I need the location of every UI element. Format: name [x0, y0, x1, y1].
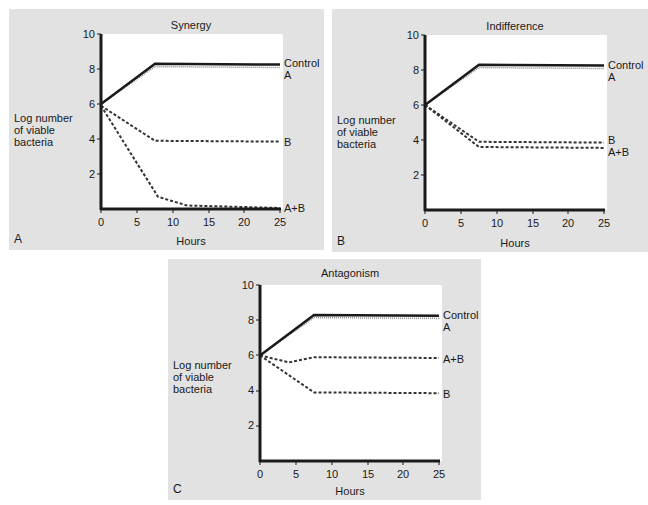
svg-text:B: B — [608, 134, 615, 146]
x-axis-ticks: 0 5 10 15 20 25 — [422, 217, 610, 229]
svg-text:8: 8 — [89, 63, 95, 75]
svg-text:A: A — [608, 71, 616, 83]
svg-text:bacteria: bacteria — [337, 138, 377, 150]
series-labels: Control A B A+B — [608, 59, 643, 158]
svg-text:20: 20 — [562, 217, 574, 229]
svg-text:10: 10 — [242, 279, 254, 291]
svg-text:bacteria: bacteria — [173, 383, 213, 395]
svg-text:8: 8 — [248, 314, 254, 326]
svg-text:0: 0 — [98, 216, 104, 228]
svg-text:10: 10 — [167, 216, 179, 228]
svg-text:Control: Control — [284, 57, 319, 69]
svg-text:of viable: of viable — [14, 124, 55, 136]
svg-text:10: 10 — [407, 29, 419, 41]
antagonism-chart: Antagonism 10 8 6 4 2 0 5 10 15 20 25 Ho… — [168, 259, 481, 500]
svg-text:A+B: A+B — [284, 202, 305, 214]
svg-text:5: 5 — [134, 216, 140, 228]
svg-text:A+B: A+B — [443, 353, 464, 365]
x-axis-label: Hours — [335, 485, 365, 497]
y-axis-label: Log number of viable bacteria — [337, 114, 396, 150]
y-axis-ticks: 10 8 6 4 2 — [242, 279, 254, 431]
svg-text:6: 6 — [89, 98, 95, 110]
y-axis-label: Log number of viable bacteria — [173, 359, 232, 395]
svg-text:Control: Control — [443, 309, 478, 321]
svg-text:6: 6 — [413, 99, 419, 111]
panel-letter: C — [173, 482, 182, 496]
svg-text:15: 15 — [362, 468, 374, 480]
panel-letter: B — [337, 234, 345, 248]
chart-title: Indifference — [486, 20, 543, 32]
svg-text:Control: Control — [608, 59, 643, 71]
svg-text:8: 8 — [413, 64, 419, 76]
svg-text:10: 10 — [83, 28, 95, 40]
svg-text:2: 2 — [89, 168, 95, 180]
chart-title: Antagonism — [321, 267, 379, 279]
svg-text:25: 25 — [598, 217, 610, 229]
svg-text:A+B: A+B — [608, 146, 629, 158]
x-axis-ticks: 0 5 10 15 20 25 — [257, 468, 445, 480]
y-axis-label: Log number of viable bacteria — [14, 112, 73, 148]
svg-text:6: 6 — [248, 349, 254, 361]
x-axis-label: Hours — [176, 235, 206, 247]
y-axis-ticks: 10 8 6 4 2 — [407, 29, 419, 181]
x-axis-label: Hours — [500, 237, 530, 249]
svg-text:0: 0 — [257, 468, 263, 480]
series-labels: Control A B A+B — [284, 57, 319, 214]
svg-text:5: 5 — [293, 468, 299, 480]
svg-text:Log number: Log number — [337, 114, 396, 126]
indifference-chart: Indifference 10 8 6 4 2 0 5 10 15 20 25 … — [332, 9, 648, 252]
svg-text:B: B — [284, 136, 291, 148]
svg-text:0: 0 — [422, 217, 428, 229]
svg-text:4: 4 — [89, 133, 95, 145]
svg-text:2: 2 — [248, 419, 254, 431]
svg-text:20: 20 — [397, 468, 409, 480]
svg-text:B: B — [443, 388, 450, 400]
svg-text:of viable: of viable — [173, 371, 214, 383]
svg-text:20: 20 — [238, 216, 250, 228]
panel-antagonism: Antagonism 10 8 6 4 2 0 5 10 15 20 25 Ho… — [168, 259, 481, 500]
svg-text:10: 10 — [491, 217, 503, 229]
panel-letter: A — [14, 232, 22, 246]
svg-text:15: 15 — [203, 216, 215, 228]
panel-synergy: Synergy 10 8 6 4 2 0 5 10 15 20 25 Hours… — [9, 9, 324, 250]
svg-text:A: A — [443, 321, 451, 333]
chart-title: Synergy — [171, 19, 212, 31]
svg-text:10: 10 — [326, 468, 338, 480]
svg-text:Log number: Log number — [14, 112, 73, 124]
svg-text:2: 2 — [413, 169, 419, 181]
svg-text:25: 25 — [433, 468, 445, 480]
y-axis-ticks: 10 8 6 4 2 — [83, 28, 95, 180]
svg-text:15: 15 — [527, 217, 539, 229]
plot-area — [101, 34, 283, 209]
svg-text:of viable: of viable — [337, 126, 378, 138]
svg-text:A: A — [284, 69, 292, 81]
svg-text:4: 4 — [413, 134, 419, 146]
series-labels: Control A A+B B — [443, 309, 478, 400]
synergy-chart: Synergy 10 8 6 4 2 0 5 10 15 20 25 Hours… — [9, 9, 324, 250]
svg-text:Log number: Log number — [173, 359, 232, 371]
svg-text:25: 25 — [274, 216, 286, 228]
panel-indifference: Indifference 10 8 6 4 2 0 5 10 15 20 25 … — [332, 9, 648, 252]
svg-text:5: 5 — [458, 217, 464, 229]
x-axis-ticks: 0 5 10 15 20 25 — [98, 216, 286, 228]
svg-text:4: 4 — [248, 384, 254, 396]
svg-text:bacteria: bacteria — [14, 136, 54, 148]
